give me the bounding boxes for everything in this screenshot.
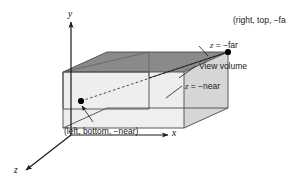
far-plane-label: z = −far: [210, 41, 238, 50]
z-axis-line: [26, 135, 71, 170]
near-plane-value: −near: [198, 81, 220, 91]
far-plane-value: −far: [223, 40, 238, 50]
y-axis-label: y: [68, 10, 72, 20]
near-corner-point-marker: [78, 98, 84, 104]
view-volume-figure: y x z (right, top, −far) (left, bottom, …: [0, 0, 286, 184]
near-plane-rel: =: [188, 81, 198, 91]
far-plane-rel: =: [213, 40, 223, 50]
near-plane-label: z = −near: [185, 82, 220, 91]
near-corner-point-label: (left, bottom, −near): [64, 127, 138, 136]
z-axis-label: z: [14, 166, 18, 176]
diagram-canvas: [0, 0, 286, 184]
far-corner-point-label: (right, top, −far): [233, 16, 286, 25]
view-volume-label: View volume: [199, 62, 247, 71]
x-axis-label: x: [172, 129, 176, 139]
